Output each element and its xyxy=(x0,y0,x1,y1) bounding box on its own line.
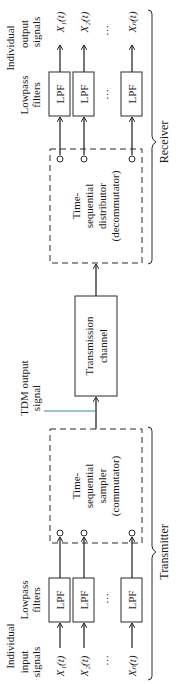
svg-text:Individual: Individual xyxy=(4,25,16,70)
receiver-section: Individual output signals Lowpass filter… xyxy=(4,10,171,264)
decommutator-block: Time- sequential distributor (decommutat… xyxy=(50,149,142,263)
svg-text:sequential: sequential xyxy=(83,464,95,509)
commutator-block: Time- sequential sampler (commutator) xyxy=(50,429,142,543)
receiver-lpf-1: LPF xyxy=(49,72,70,116)
svg-text:sequential: sequential xyxy=(83,184,95,229)
output-x2: X₂(t) xyxy=(78,11,91,33)
svg-text:sampler: sampler xyxy=(96,468,108,503)
svg-text:channel: channel xyxy=(97,329,109,363)
transmitter-label: Transmitter xyxy=(157,524,171,580)
svg-text:output: output xyxy=(18,20,30,48)
svg-text:signals: signals xyxy=(30,647,42,678)
receiver-lpf-2: LPF xyxy=(73,72,94,116)
svg-text:X₂(t): X₂(t) xyxy=(78,11,91,33)
svg-text:(decommutator): (decommutator) xyxy=(109,170,122,241)
svg-text:⋯: ⋯ xyxy=(102,89,114,100)
receiver-brace xyxy=(148,10,156,264)
svg-text:distributor: distributor xyxy=(96,183,108,229)
tdm-output-label: TDM output xyxy=(18,360,30,415)
svg-text:Lowpass: Lowpass xyxy=(18,580,30,619)
svg-text:filters: filters xyxy=(30,82,42,108)
svg-text:Individual: Individual xyxy=(4,623,16,668)
output-x1: X₁(t) xyxy=(54,11,67,33)
input-xn: Xₙ(t) xyxy=(126,655,139,677)
svg-text:X₁(t): X₁(t) xyxy=(54,11,67,33)
svg-text:signal: signal xyxy=(30,385,42,411)
output-xn: Xₙ(t) xyxy=(126,11,139,33)
transmission-channel-block: Transmission channel xyxy=(75,296,117,396)
svg-text:⋯: ⋯ xyxy=(102,593,114,604)
input-signals-header: Individual xyxy=(4,623,16,668)
transmitter-section: Time- sequential sampler (commutator) LP… xyxy=(4,427,171,680)
receiver-label: Receiver xyxy=(157,121,171,164)
svg-text:Xₙ(t): Xₙ(t) xyxy=(126,655,139,677)
receiver-filters-header: Lowpass xyxy=(18,75,30,114)
input-x2: X₂(t) xyxy=(78,655,91,677)
svg-text:Transmitter: Transmitter xyxy=(157,524,171,580)
svg-text:Time-: Time- xyxy=(70,472,82,499)
svg-text:Xₙ(t): Xₙ(t) xyxy=(126,11,139,33)
output-signals-header: Individual xyxy=(4,25,16,70)
svg-text:LPF: LPF xyxy=(78,591,90,610)
svg-text:⋯: ⋯ xyxy=(102,25,114,36)
receiver-lpf-n: LPF xyxy=(121,72,142,116)
input-x1: X₁(t) xyxy=(54,655,67,677)
svg-text:X₁(t): X₁(t) xyxy=(54,655,67,677)
svg-text:Receiver: Receiver xyxy=(157,121,171,164)
svg-text:LPF: LPF xyxy=(54,591,66,610)
svg-text:LPF: LPF xyxy=(126,591,138,610)
svg-text:LPF: LPF xyxy=(54,85,66,104)
svg-text:TDM output: TDM output xyxy=(18,360,30,415)
svg-text:LPF: LPF xyxy=(78,85,90,104)
svg-text:signals: signals xyxy=(30,17,42,48)
svg-text:input: input xyxy=(18,651,30,674)
transmitter-lpf-1: LPF xyxy=(49,578,70,622)
svg-text:Lowpass: Lowpass xyxy=(18,75,30,114)
svg-text:X₂(t): X₂(t) xyxy=(78,655,91,677)
transmitter-brace xyxy=(148,427,156,680)
transmitter-filters-header: Lowpass xyxy=(18,580,30,619)
transmitter-lpf-2: LPF xyxy=(73,578,94,622)
svg-text:(commutator): (commutator) xyxy=(109,455,122,516)
transmitter-lpf-n: LPF xyxy=(121,578,142,622)
svg-text:Transmission: Transmission xyxy=(83,316,95,375)
svg-text:Time-: Time- xyxy=(70,192,82,219)
svg-text:⋯: ⋯ xyxy=(102,655,114,666)
svg-text:LPF: LPF xyxy=(126,85,138,104)
tdm-diagram: Individual output signals Lowpass filter… xyxy=(0,0,186,684)
svg-text:filters: filters xyxy=(30,587,42,613)
